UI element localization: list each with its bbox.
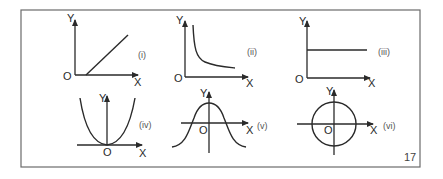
panel-label: (ii) [247,47,257,57]
origin-label: O [63,70,72,82]
figure-frame [21,10,420,167]
panel-label: (v) [257,121,268,131]
panel-label: (vi) [383,121,396,131]
x-axis-label: X [134,76,142,88]
panel-vi: Y X O (vi) [297,85,396,155]
panel-label: (iv) [139,120,152,130]
panel-iv: Y X O (iv) [77,92,152,159]
origin-label: O [295,73,304,85]
panel-v: Y X O (v) [172,87,268,153]
panel-i: Y X O (i) [63,12,146,88]
x-axis-label: X [246,124,254,136]
y-axis-label: Y [299,15,307,27]
x-axis-label: X [246,77,254,89]
panel-ii: Y X O (ii) [174,14,257,89]
origin-label: O [324,124,333,136]
y-axis-label: Y [326,85,334,97]
origin-label: O [103,146,112,158]
origin-label: O [199,124,208,136]
linear-curve [86,35,128,75]
panel-label: (i) [138,50,146,60]
origin-label: O [174,72,183,84]
page-number: 17 [404,151,416,163]
y-axis-label: Y [200,87,208,99]
hyperbola-curve [193,25,235,68]
panel-label: (iii) [378,47,390,57]
y-axis-label: Y [99,92,107,104]
graphs-figure: Y X O (i) Y X O (ii) Y X O (iii) Y X O (… [0,0,443,179]
x-axis-label: X [370,124,378,136]
x-axis-label: X [139,147,147,159]
y-axis-label: Y [67,12,75,24]
x-axis-label: X [368,77,376,89]
panel-iii: Y X O (iii) [295,15,390,89]
y-axis-label: Y [176,14,184,26]
